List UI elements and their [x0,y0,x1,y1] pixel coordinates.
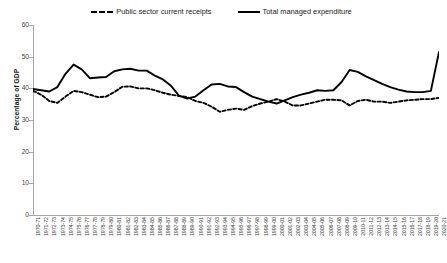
plot-area [33,25,439,215]
x-tick-label: 1987-88 [173,217,179,236]
x-tick-label: 2011-12 [368,217,374,236]
legend-swatch-dashed [91,11,113,13]
x-tick-label: 2016-17 [409,217,415,236]
y-axis-title: Percentage of GDP [13,55,20,145]
x-tick-label: 1974-75 [68,217,74,236]
x-tick-label: 2018-19 [425,217,431,236]
x-tick-label: 1990-91 [198,217,204,236]
x-tick-label: 1986-87 [165,217,171,236]
x-tick-label: 2006-07 [328,217,334,236]
x-tick-label: 1975-76 [76,217,82,236]
x-tick-label: 2005-06 [319,217,325,236]
x-tick-label: 2000-01 [279,217,285,236]
x-tick-label: 1984-85 [149,217,155,236]
x-tick-label: 1985-86 [157,217,163,236]
x-axis-line [33,215,439,216]
legend-swatch-solid [238,11,260,13]
y-tick-label: 40 [0,84,29,91]
x-tick-label: 1996-97 [246,217,252,236]
x-tick-label: 1988-89 [181,217,187,236]
x-tick-label: 2015-16 [401,217,407,236]
x-tick-label: 1980-81 [116,217,122,236]
x-tick-label: 1970-71 [35,217,41,236]
x-tick-label: 2003-04 [303,217,309,236]
x-tick-label: 1983-84 [141,217,147,236]
y-tick-label: 10 [0,179,29,186]
legend-label-expenditure: Total managed expenditure [263,7,352,16]
x-tick-label: 1979-80 [108,217,114,236]
series-line-1 [33,86,439,111]
x-tick-label: 1992-93 [214,217,220,236]
x-tick-label: 2002-03 [295,217,301,236]
x-tick-label: 2008-09 [344,217,350,236]
y-tick-label: 0 [0,211,29,218]
x-tick-label: 2020-21 [441,217,447,236]
x-tick-label: 1976-77 [84,217,90,236]
x-tick-label: 2019-20 [433,217,439,236]
x-tick-label: 1995-96 [238,217,244,236]
chart-legend: Public sector current receipts Total man… [0,7,443,16]
x-tick-label: 1993-94 [222,217,228,236]
y-tick-label: 60 [0,21,29,28]
x-axis-labels: 1970-711971-721972-731973-741974-751975-… [33,217,439,263]
x-tick-label: 2001-02 [287,217,293,236]
x-tick-label: 2007-08 [336,217,342,236]
x-tick-label: 2010-11 [360,217,366,236]
x-tick-label: 1978-79 [100,217,106,236]
x-tick-label: 1991-92 [206,217,212,236]
x-tick-label: 2004-05 [311,217,317,236]
x-tick-label: 1973-74 [60,217,66,236]
series-svg [33,25,439,215]
x-tick-label: 2017-18 [417,217,423,236]
x-tick-label: 2012-13 [376,217,382,236]
x-tick-label: 1994-95 [230,217,236,236]
x-tick-label: 1999-00 [271,217,277,236]
x-tick-label: 1998-99 [263,217,269,236]
legend-item-receipts: Public sector current receipts [91,7,211,16]
x-tick-label: 1972-73 [51,217,57,236]
x-tick-label: 2014-15 [392,217,398,236]
x-tick-label: 1981-82 [125,217,131,236]
legend-label-receipts: Public sector current receipts [116,7,211,16]
y-tick-label: 20 [0,148,29,155]
x-tick-label: 2009-10 [352,217,358,236]
y-tick-label: 50 [0,53,29,60]
x-tick-label: 1977-78 [92,217,98,236]
x-tick-label: 1997-98 [254,217,260,236]
legend-item-expenditure: Total managed expenditure [238,7,352,16]
x-tick-label: 2013-14 [384,217,390,236]
x-tick-label: 1971-72 [43,217,49,236]
y-tick-label: 30 [0,116,29,123]
x-tick-label: 1982-83 [133,217,139,236]
x-tick-label: 1989-90 [189,217,195,236]
y-tick-mark [29,215,33,216]
